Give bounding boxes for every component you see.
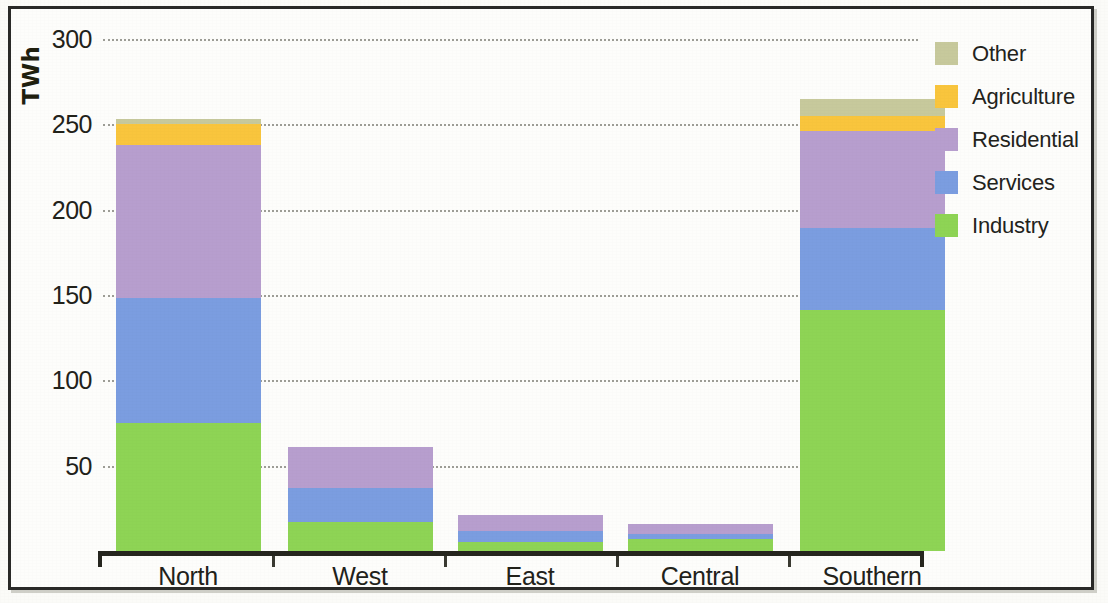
gridline-300 xyxy=(103,39,918,41)
y-tick-label: 100 xyxy=(30,366,92,395)
x-axis-tick xyxy=(616,556,619,567)
x-axis-tick xyxy=(444,556,447,567)
bar-segment-industry[interactable] xyxy=(628,539,773,551)
bar-segment-residential[interactable] xyxy=(800,131,945,228)
bar-segment-agriculture[interactable] xyxy=(116,124,261,144)
legend-swatch-industry-icon xyxy=(935,214,958,237)
bar-segment-residential[interactable] xyxy=(116,145,261,299)
bar-segment-services[interactable] xyxy=(288,488,433,522)
bar-southern[interactable] xyxy=(800,99,945,551)
bar-segment-services[interactable] xyxy=(116,298,261,423)
legend-item-industry[interactable]: Industry xyxy=(935,204,1095,247)
legend-item-other[interactable]: Other xyxy=(935,32,1095,75)
x-axis-line xyxy=(98,551,924,556)
legend-label: Industry xyxy=(972,213,1049,239)
x-axis-tick xyxy=(272,556,275,567)
legend-label: Other xyxy=(972,41,1026,67)
legend-swatch-agriculture-icon xyxy=(935,85,958,108)
bar-central[interactable] xyxy=(628,524,773,551)
scanned-page: TWh 50100150200250300 NorthWestEastCentr… xyxy=(0,0,1108,603)
bar-segment-services[interactable] xyxy=(458,531,603,543)
x-tick-label-central: Central xyxy=(610,562,790,591)
bar-segment-residential[interactable] xyxy=(288,447,433,488)
x-axis-tick xyxy=(920,551,924,567)
bar-north[interactable] xyxy=(116,119,261,551)
y-axis-title: TWh xyxy=(0,60,76,90)
x-tick-label-west: West xyxy=(270,562,450,591)
x-axis-tick xyxy=(788,556,791,567)
legend-swatch-residential-icon xyxy=(935,128,958,151)
bar-segment-other[interactable] xyxy=(800,99,945,116)
legend-swatch-services-icon xyxy=(935,171,958,194)
bar-east[interactable] xyxy=(458,515,603,551)
bar-segment-residential[interactable] xyxy=(628,524,773,534)
y-tick-label: 300 xyxy=(30,25,92,54)
legend-item-services[interactable]: Services xyxy=(935,161,1095,204)
y-tick-label: 50 xyxy=(30,451,92,480)
legend-item-residential[interactable]: Residential xyxy=(935,118,1095,161)
bar-segment-industry[interactable] xyxy=(458,542,603,551)
x-tick-label-north: North xyxy=(98,562,278,591)
legend-item-agriculture[interactable]: Agriculture xyxy=(935,75,1095,118)
bar-segment-services[interactable] xyxy=(800,228,945,310)
y-tick-label: 250 xyxy=(30,110,92,139)
legend-label: Residential xyxy=(972,127,1079,153)
bar-segment-industry[interactable] xyxy=(116,423,261,551)
bar-segment-residential[interactable] xyxy=(458,515,603,530)
chart-legend: OtherAgricultureResidentialServicesIndus… xyxy=(935,32,1095,247)
stacked-bar-chart: TWh 50100150200250300 NorthWestEastCentr… xyxy=(0,0,1108,603)
y-tick-label: 200 xyxy=(30,195,92,224)
bar-segment-industry[interactable] xyxy=(800,310,945,551)
y-tick-label: 150 xyxy=(30,281,92,310)
legend-label: Agriculture xyxy=(972,84,1075,110)
legend-swatch-other-icon xyxy=(935,42,958,65)
legend-label: Services xyxy=(972,170,1055,196)
x-tick-label-east: East xyxy=(440,562,620,591)
bar-west[interactable] xyxy=(288,447,433,551)
bar-segment-industry[interactable] xyxy=(288,522,433,551)
x-tick-label-southern: Southern xyxy=(782,562,962,591)
x-axis-tick xyxy=(98,551,102,567)
bar-segment-agriculture[interactable] xyxy=(800,116,945,131)
